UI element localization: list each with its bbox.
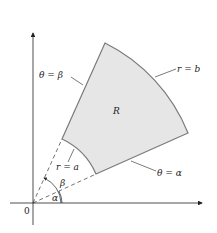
leader-r-a — [68, 149, 74, 162]
polar-region-diagram: R θ = β r = b θ = α r = a β α 0 — [0, 0, 217, 233]
leader-theta-alpha — [131, 161, 156, 171]
label-r-a: r = a — [56, 162, 79, 172]
label-region-R: R — [112, 106, 120, 116]
label-theta-beta: θ = β — [39, 70, 63, 80]
label-angle-beta: β — [59, 178, 65, 188]
label-origin: 0 — [24, 206, 30, 216]
label-angle-alpha: α — [52, 193, 58, 203]
label-r-b: r = b — [177, 64, 201, 74]
leader-theta-beta — [71, 77, 83, 85]
leader-r-b — [155, 69, 176, 77]
region-R — [62, 43, 188, 174]
label-theta-alpha: θ = α — [157, 168, 182, 178]
